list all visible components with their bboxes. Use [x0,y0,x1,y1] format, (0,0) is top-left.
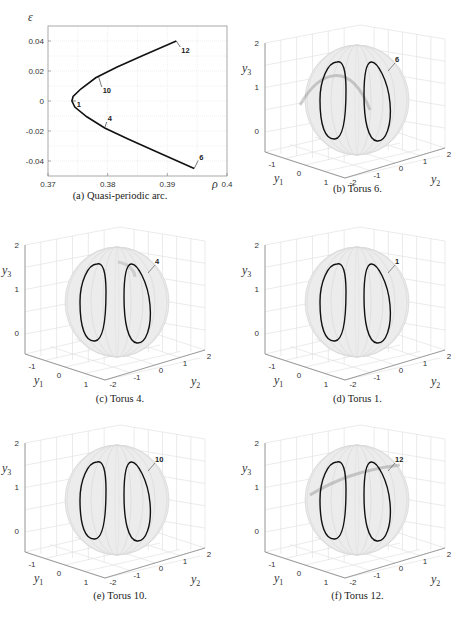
torus-plot: 012y3-101y1-2-1012y210 [0,420,235,603]
x-tick-labels: 0.370.380.390.4 [40,173,233,189]
x-tick: 0.4 [221,180,233,189]
y2-tick: -1 [373,571,381,580]
arc-plot: 0.370.380.390.4 -0.04-0.0200.020.04 ε ρ … [0,0,240,190]
panel-f: 012y3-101y1-2-1012y212(f) Torus 12. [240,420,475,623]
y1-tick: 0 [57,569,62,578]
y3-tick: 1 [15,285,20,294]
caption-d: (d) Torus 1. [240,393,475,404]
y3-axis-label: y3 [1,461,11,477]
y2-tick: 1 [423,359,428,368]
torus-label: 1 [395,257,399,266]
y2-tick: 0 [159,564,164,573]
x-tick: 0.37 [40,180,56,189]
y2-tick: 0 [159,366,164,375]
y2-tick: 2 [207,550,212,559]
y3-tick: 1 [255,285,260,294]
panel-b: 012y3-101y1-2-1012y26(b) Torus 6. [240,0,475,210]
y3-axis-label: y3 [1,263,11,279]
y2-tick: -1 [373,171,381,180]
point-label: 4 [108,114,113,123]
y2-tick: 0 [399,366,404,375]
point-label: 1 [77,100,81,109]
y3-tick: 1 [255,83,260,92]
y2-tick: -2 [349,380,357,389]
caption-a: (a) Quasi-periodic arc. [0,190,240,201]
y2-tick: 2 [447,550,452,559]
y3-axis-label: y3 [241,61,251,77]
y2-tick: 1 [423,557,428,566]
y1-tick: -1 [268,362,276,371]
y1-tick: 1 [84,578,89,587]
torus-plot: 012y3-101y1-2-1012y21 [240,210,475,400]
caption-e: (e) Torus 10. [0,590,240,601]
y3-axis-label: y3 [241,263,251,279]
torus-plot: 012y3-101y1-2-1012y24 [0,210,235,400]
y2-axis-label: y2 [190,572,200,588]
y1-tick: 0 [297,569,302,578]
y-tick: -0.02 [26,127,45,136]
y1-axis-label: y1 [273,373,283,389]
panel-d: 012y3-101y1-2-1012y21(d) Torus 1. [240,210,475,420]
y-tick: 0.04 [28,37,44,46]
y1-tick: -1 [268,560,276,569]
y3-tick: 0 [15,329,20,338]
x-axis-label: ρ [211,177,218,190]
x-tick: 0.38 [100,180,116,189]
y-tick: 0.02 [28,67,44,76]
y2-tick: 2 [447,150,452,159]
torus-label: 10 [155,455,163,464]
y2-tick: -1 [373,373,381,382]
y3-tick: 0 [255,527,260,536]
y2-tick: 0 [399,164,404,173]
point-label: 12 [181,46,189,55]
y-axis-label: ε [28,10,33,24]
y-tick: -0.04 [26,157,45,166]
y3-tick: 1 [15,483,20,492]
y1-axis-label: y1 [273,571,283,587]
torus-label: 4 [155,257,160,266]
x-tick: 0.39 [160,180,176,189]
y2-tick: -2 [109,380,117,389]
y3-tick: 2 [255,439,260,448]
caption-b: (b) Torus 6. [240,183,475,194]
y3-tick: 2 [15,241,20,250]
torus-label: 12 [395,455,403,464]
y-tick-labels: -0.04-0.0200.020.04 [26,37,51,166]
y2-axis-label: y2 [430,572,440,588]
y3-tick: 1 [255,483,260,492]
arc-curve [72,41,194,169]
y1-tick: 1 [324,380,329,389]
y1-tick: 0 [57,371,62,380]
y1-tick: 1 [84,380,89,389]
caption-c: (c) Torus 4. [0,393,240,404]
y3-tick: 0 [15,527,20,536]
y3-tick: 0 [255,127,260,136]
torus-plot: 012y3-101y1-2-1012y212 [240,420,475,603]
y2-tick: -1 [133,373,141,382]
y1-tick: -1 [28,560,36,569]
y2-axis-label: y2 [190,374,200,390]
y1-tick: 0 [297,371,302,380]
torus-label: 6 [395,55,399,64]
y2-tick: 1 [183,359,188,368]
point-label: 10 [103,86,111,95]
y3-axis-label: y3 [241,461,251,477]
torus-plot: 012y3-101y1-2-1012y26 [240,0,475,190]
panel-a: 0.370.380.390.4 -0.04-0.0200.020.04 ε ρ … [0,0,240,210]
y2-tick: 2 [207,352,212,361]
point-label: 6 [199,153,203,162]
y1-axis-label: y1 [33,373,43,389]
y2-tick: -2 [109,578,117,587]
caption-f: (f) Torus 12. [240,590,475,601]
y2-tick: 0 [399,564,404,573]
y1-axis-label: y1 [33,571,43,587]
y-tick: 0 [40,97,45,106]
y2-tick: 1 [423,157,428,166]
y3-tick: 2 [255,241,260,250]
panel-e: 012y3-101y1-2-1012y210(e) Torus 10. [0,420,240,623]
y3-tick: 0 [255,329,260,338]
y3-tick: 2 [255,39,260,48]
y2-tick: 2 [447,352,452,361]
y2-tick: -2 [349,578,357,587]
y2-tick: 1 [183,557,188,566]
